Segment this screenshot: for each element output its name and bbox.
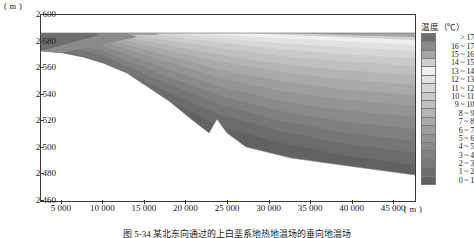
temperature-legend: 温度（℃） > 1716 ~ 1715 ~ 1614 ~ 1513 ~ 1412… bbox=[421, 20, 474, 185]
y-axis-tick-label: 2 600 bbox=[0, 9, 56, 19]
geothermal-cross-section-figure: ( m ) ( m ) bbox=[0, 0, 474, 238]
y-axis-tick-mark bbox=[40, 120, 44, 121]
x-axis-tick-mark bbox=[185, 200, 186, 204]
figure-caption: 图 5-34 某北东向通过的上白垩系地热地温场的垂向地温场 bbox=[0, 227, 474, 238]
x-axis-tick-label: 40 000 bbox=[339, 203, 364, 213]
y-axis-tick-label: 2 500 bbox=[0, 142, 56, 152]
x-axis-tick-mark bbox=[310, 200, 311, 204]
x-axis-tick-label: 30 000 bbox=[256, 203, 281, 213]
legend-entry-list: > 1716 ~ 1715 ~ 1614 ~ 1513 ~ 1412 ~ 131… bbox=[421, 34, 474, 185]
x-axis-tick-label: 10 000 bbox=[90, 203, 115, 213]
y-axis-tick-mark bbox=[40, 67, 44, 68]
x-axis-tick-label: 35 000 bbox=[298, 203, 323, 213]
y-axis-tick-label: 2 460 bbox=[0, 195, 56, 205]
y-axis-tick-mark bbox=[40, 173, 44, 174]
x-axis-tick-mark bbox=[61, 200, 62, 204]
legend-title: 温度（℃） bbox=[421, 20, 474, 32]
y-axis-tick-mark bbox=[40, 147, 44, 148]
contour-band-layer bbox=[41, 15, 415, 201]
y-axis-tick-mark bbox=[40, 200, 44, 201]
x-axis-tick-label: 20 000 bbox=[173, 203, 198, 213]
x-axis-tick-label: 25 000 bbox=[215, 203, 240, 213]
x-axis-unit-label: ( m ) bbox=[404, 204, 422, 214]
x-axis-tick-mark bbox=[227, 200, 228, 204]
y-axis-tick-label: 2 580 bbox=[0, 36, 56, 46]
plot-area bbox=[40, 14, 416, 202]
x-axis-tick-label: 45 000 bbox=[381, 203, 406, 213]
y-axis-tick-mark bbox=[40, 41, 44, 42]
y-axis-tick-label: 2 480 bbox=[0, 168, 56, 178]
x-axis-tick-mark bbox=[352, 200, 353, 204]
legend-range-label: 0 ~ 1 bbox=[438, 176, 474, 185]
x-axis-tick-label: 5 000 bbox=[51, 203, 71, 213]
y-axis-tick-label: 2 540 bbox=[0, 89, 56, 99]
y-axis-tick-label: 2 520 bbox=[0, 115, 56, 125]
y-axis-tick-mark bbox=[40, 14, 44, 15]
legend-color-swatch bbox=[421, 176, 436, 186]
x-axis-tick-label: 15 000 bbox=[132, 203, 157, 213]
x-axis-tick-mark bbox=[393, 200, 394, 204]
x-axis-tick-mark bbox=[269, 200, 270, 204]
legend-entry: 0 ~ 1 bbox=[421, 176, 474, 184]
y-axis-tick-mark bbox=[40, 94, 44, 95]
x-axis-tick-mark bbox=[144, 200, 145, 204]
y-axis-tick-label: 2 560 bbox=[0, 62, 56, 72]
x-axis-tick-mark bbox=[102, 200, 103, 204]
